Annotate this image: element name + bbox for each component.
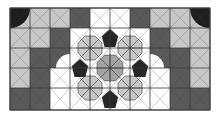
mosaic-figure <box>0 0 217 118</box>
